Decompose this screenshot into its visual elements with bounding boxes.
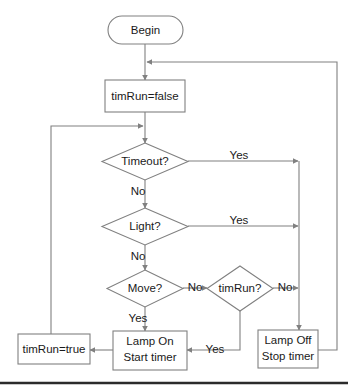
flowchart-canvas: Begin timRun=false Timeout? Light? Move?… <box>0 0 348 389</box>
node-timeout-label: Timeout? <box>121 155 169 167</box>
node-begin-label: Begin <box>131 24 160 36</box>
edge-label-timrun-no: No <box>278 281 293 293</box>
edge-label-timeout-no: No <box>131 185 146 197</box>
node-lamp-off-label-line2: Stop timer <box>262 350 315 362</box>
edge-label-timeout-yes: Yes <box>230 149 249 161</box>
edge-label-light-yes: Yes <box>230 214 249 226</box>
node-timrun-true-label: timRun=true <box>23 343 86 355</box>
edge-label-light-no: No <box>131 250 146 262</box>
edge-label-move-yes: Yes <box>129 312 148 324</box>
node-light-label: Light? <box>129 220 160 232</box>
flowchart-svg: Begin timRun=false Timeout? Light? Move?… <box>0 0 348 389</box>
node-timrun-false-label: timRun=false <box>111 90 178 102</box>
node-lamp-on-label-line1: Lamp On <box>126 335 173 347</box>
edge-label-move-no: No <box>188 281 203 293</box>
node-move-label: Move? <box>128 282 163 294</box>
edge-label-timrun-yes: Yes <box>206 343 225 355</box>
node-timrun-query-label: timRun? <box>219 282 262 294</box>
node-lamp-off-label-line1: Lamp Off <box>264 334 312 346</box>
node-lamp-on-label-line2: Start timer <box>123 351 176 363</box>
